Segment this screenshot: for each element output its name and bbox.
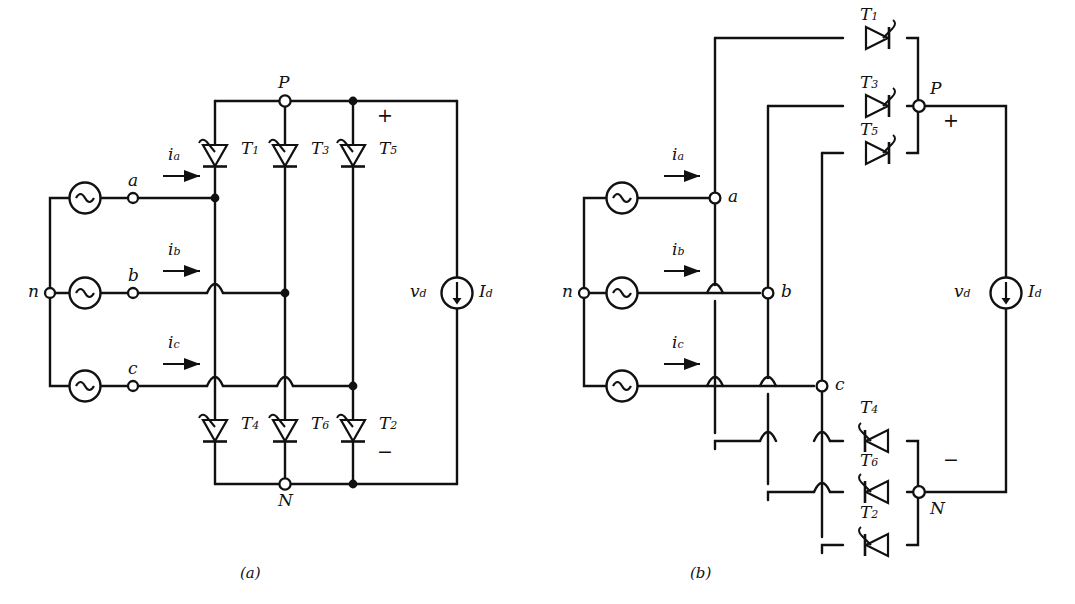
current-label-ic: ic <box>168 334 180 351</box>
junction-dot <box>349 382 358 391</box>
junction-dot <box>349 97 358 106</box>
terminal-a2 <box>710 193 721 204</box>
current-label-ib2: ib <box>672 241 684 258</box>
caption-b: (b) <box>690 564 711 582</box>
node-label-a: a <box>128 172 138 189</box>
dc-current-source-icon-a <box>442 278 473 309</box>
terminal-N <box>279 478 290 489</box>
dc-current-source-icon-b <box>991 278 1022 309</box>
thyristor-label-T6-b: T6 <box>860 452 878 469</box>
node-label-P2: P <box>930 80 941 97</box>
ac-source-icon-b <box>70 278 101 309</box>
terminal-b2 <box>763 288 774 299</box>
terminal-c2 <box>817 381 828 392</box>
dc-voltage-label-a: vd <box>410 283 427 300</box>
node-label-a2: a <box>728 188 738 205</box>
ac-source-icon-c <box>70 371 101 402</box>
node-label-N: N <box>278 492 293 509</box>
terminal-n2 <box>579 288 589 298</box>
node-label-P: P <box>278 74 289 91</box>
thyristor-label-T4-b: T4 <box>860 399 878 416</box>
thyristor-label-T1-b: T1 <box>860 6 878 23</box>
current-label-ia: ia <box>168 146 180 163</box>
thyristor-label-T6: T6 <box>311 415 329 432</box>
terminal-N2 <box>913 486 925 498</box>
thyristor-T6-b <box>859 474 888 503</box>
node-label-c2: c <box>835 376 845 393</box>
thyristor-T2 <box>337 415 365 442</box>
dc-current-label-b: Id <box>1028 283 1042 300</box>
thyristor-T3 <box>269 140 297 167</box>
node-label-b: b <box>128 267 139 284</box>
thyristor-label-T2: T2 <box>379 415 397 432</box>
current-label-ia2: ia <box>672 146 684 163</box>
thyristor-T2-b <box>859 527 888 556</box>
thyristor-T4-b <box>859 423 888 452</box>
thyristor-label-T5-b: T5 <box>860 121 878 138</box>
thyristor-label-T2-b: T2 <box>860 504 878 521</box>
ac-source-icon-a <box>70 183 101 214</box>
polarity-plus-b: + <box>943 109 959 131</box>
polarity-minus-a: − <box>377 440 393 462</box>
node-label-c: c <box>128 360 138 377</box>
thyristor-T5 <box>337 140 365 167</box>
thyristor-T1-b <box>866 20 895 49</box>
figure-canvas: n a b c P N ia ib ic T1 T3 T5 T4 T6 T2 v… <box>0 0 1075 604</box>
current-label-ic2: ic <box>672 334 684 351</box>
dc-current-label-a: Id <box>479 283 493 300</box>
node-label-n2: n <box>562 283 573 300</box>
node-label-n: n <box>28 283 39 300</box>
thyristor-T6 <box>269 415 297 442</box>
thyristor-T4 <box>199 415 227 442</box>
circuit-svg <box>0 0 1075 604</box>
node-label-N2: N <box>930 500 945 517</box>
ac-source-icon-a2 <box>607 183 638 214</box>
thyristor-T3-b <box>866 88 895 117</box>
thyristor-label-T1: T1 <box>241 140 259 157</box>
caption-a: (a) <box>240 564 261 582</box>
thyristor-label-T4: T4 <box>241 415 259 432</box>
thyristor-label-T3-b: T3 <box>860 74 878 91</box>
junction-dot <box>281 289 290 298</box>
terminal-P <box>279 95 290 106</box>
thyristor-T1 <box>199 140 227 167</box>
ac-source-icon-c2 <box>607 371 638 402</box>
thyristor-T5-b <box>866 135 895 164</box>
terminal-P2 <box>913 100 925 112</box>
polarity-plus-a: + <box>377 104 393 126</box>
polarity-minus-b: − <box>943 448 959 470</box>
terminal-b <box>128 288 138 298</box>
dc-voltage-label-b: vd <box>954 283 971 300</box>
ac-source-icon-b2 <box>607 278 638 309</box>
current-label-ib: ib <box>168 241 180 258</box>
node-label-b2: b <box>781 283 792 300</box>
terminal-n <box>45 288 55 298</box>
thyristor-label-T5: T5 <box>379 140 397 157</box>
junction-dot <box>349 480 358 489</box>
thyristor-label-T3: T3 <box>311 140 329 157</box>
terminal-c <box>128 381 138 391</box>
junction-dot <box>211 194 220 203</box>
terminal-a <box>128 193 138 203</box>
